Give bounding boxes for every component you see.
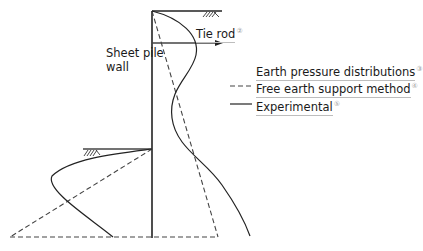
legend-title-marker: ③ (416, 65, 422, 73)
legend-item-marker: ⑤ (334, 100, 340, 108)
tie-rod-label: Tie rod② (196, 24, 243, 41)
tie-rod-text: Tie rod (196, 27, 235, 43)
legend-item-label: Free earth support method (256, 82, 411, 98)
wall-label-line2: wall (106, 60, 164, 74)
ground-hatch-icon (84, 150, 100, 156)
legend-item-label: Experimental (256, 100, 333, 116)
legend-title: Earth pressure distributions③ (256, 62, 423, 79)
legend-item-experimental: Experimental⑤ (256, 97, 340, 114)
legend-item-marker: ④ (412, 82, 418, 90)
legend-item-free-earth: Free earth support method④ (256, 79, 418, 96)
free-earth-support-distribution (10, 11, 218, 237)
ground-hatch-icon (203, 12, 219, 17)
wall-label-line1: Sheet pile (106, 46, 164, 60)
experimental-distribution (51, 11, 250, 237)
wall-label: Sheet pile wall (106, 46, 164, 74)
tie-rod-marker: ② (236, 27, 242, 35)
